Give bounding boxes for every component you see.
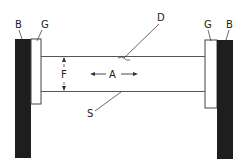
label-a: A bbox=[109, 69, 116, 80]
left-block-b bbox=[15, 39, 31, 158]
leader-left-b bbox=[19, 30, 22, 39]
label-f: F bbox=[61, 69, 67, 80]
label-right-g: G bbox=[204, 19, 212, 30]
label-s: S bbox=[87, 108, 93, 119]
right-block-b bbox=[217, 40, 233, 159]
leader-right-g bbox=[208, 30, 211, 41]
arrow-right-icon bbox=[133, 72, 138, 76]
arrow-left-icon bbox=[90, 72, 95, 76]
label-left-b: B bbox=[15, 19, 22, 30]
label-right-b: B bbox=[226, 19, 233, 30]
right-gasket-g bbox=[205, 40, 217, 108]
arrow-up-icon bbox=[62, 57, 66, 62]
label-left-g: G bbox=[41, 19, 49, 30]
leader-s bbox=[95, 92, 121, 111]
leader-d bbox=[124, 24, 159, 58]
arrow-down-icon bbox=[62, 86, 66, 91]
leader-right-b bbox=[226, 30, 229, 40]
label-d: D bbox=[157, 12, 165, 23]
left-gasket-g bbox=[31, 39, 41, 104]
leader-d-curl bbox=[118, 57, 130, 60]
diagram-canvas: B G D G B F A S bbox=[0, 0, 245, 167]
